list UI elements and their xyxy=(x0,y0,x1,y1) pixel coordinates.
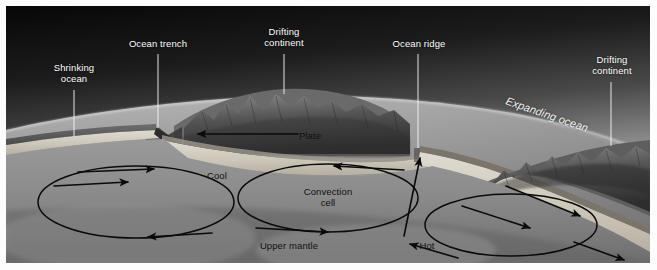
label-convection-cell: Convection cell xyxy=(288,186,368,208)
label-plate: Plate xyxy=(284,130,336,141)
label-hot: Hot xyxy=(412,240,442,251)
label-ocean-ridge: Ocean ridge xyxy=(374,38,464,49)
label-drifting-continent-right: Drifting continent xyxy=(572,54,650,76)
tectonics-scene: Shrinking ocean Ocean trench Drifting co… xyxy=(6,6,650,263)
label-upper-mantle: Upper mantle xyxy=(248,240,330,251)
label-drifting-continent-left: Drifting continent xyxy=(244,26,324,48)
label-cool: Cool xyxy=(198,170,236,181)
label-shrinking-ocean: Shrinking ocean xyxy=(34,62,114,84)
label-ocean-trench: Ocean trench xyxy=(110,38,206,49)
figure-root: Shrinking ocean Ocean trench Drifting co… xyxy=(0,0,657,270)
figure-frame: Shrinking ocean Ocean trench Drifting co… xyxy=(6,6,650,263)
